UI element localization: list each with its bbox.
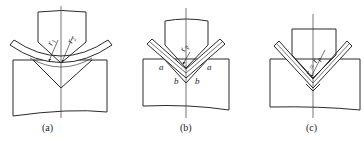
v-bending-diagram: r1 r2 (a) rp a a b b (b)	[0, 0, 364, 142]
die-a	[13, 60, 107, 116]
panel-b: rp a a b b (b)	[143, 8, 229, 134]
caption-b: (b)	[180, 122, 192, 134]
label-b-right: b	[195, 76, 200, 86]
label-rp: rp	[177, 44, 189, 53]
label-a-right: a	[207, 62, 212, 72]
caption-c: (c)	[306, 122, 317, 134]
label-b-left: b	[174, 76, 179, 86]
panel-c: r = rp (c)	[270, 14, 360, 134]
die-a-v-groove	[33, 60, 92, 88]
caption-a: (a)	[42, 122, 53, 134]
label-a-left: a	[159, 62, 164, 72]
panel-a: r1 r2 (a)	[10, 6, 112, 134]
rp-leader	[183, 52, 190, 64]
label-r2: r2	[65, 35, 78, 45]
